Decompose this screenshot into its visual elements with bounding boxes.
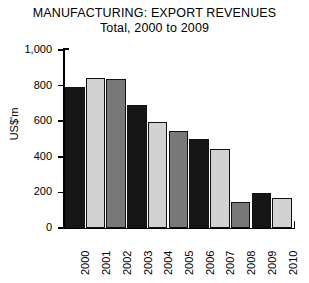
bar [189, 139, 209, 228]
bar [65, 87, 85, 229]
bar [252, 193, 272, 228]
y-axis-tick-label: 600 [12, 114, 52, 126]
x-axis-tick-label: 2003 [142, 251, 154, 275]
x-axis-tick-label: 2008 [245, 251, 257, 275]
y-axis-tick [58, 120, 63, 122]
y-axis-tick [58, 227, 63, 229]
bar-series [65, 50, 293, 228]
y-axis-tick [58, 192, 63, 194]
bar [210, 149, 230, 228]
y-axis-tick-label: 0 [12, 221, 52, 233]
y-axis-tick-label: 800 [12, 79, 52, 91]
bar [231, 202, 251, 228]
bar-chart-figure: MANUFACTURING: EXPORT REVENUES Total, 20… [0, 0, 309, 283]
x-axis-tick-label: 2001 [100, 251, 112, 275]
x-axis-tick-label: 2009 [266, 251, 278, 275]
y-axis-tick [58, 49, 63, 51]
bar [272, 198, 292, 228]
y-axis-tick [58, 156, 63, 158]
x-axis-tick-label: 2005 [183, 251, 195, 275]
x-axis-tick-label: 2006 [204, 251, 216, 275]
x-axis-tick-label: 2000 [79, 251, 91, 275]
y-axis-tick-label: 200 [12, 185, 52, 197]
y-axis-tick-label: 400 [12, 150, 52, 162]
chart-title-block: MANUFACTURING: EXPORT REVENUES Total, 20… [0, 6, 309, 36]
x-axis-right-cap [294, 221, 296, 229]
chart-title: MANUFACTURING: EXPORT REVENUES [0, 6, 309, 21]
bar [148, 122, 168, 228]
x-axis-tick-label: 2007 [224, 251, 236, 275]
x-axis-tick-labels: 2000200120022003200420052006200720082009… [65, 231, 293, 281]
y-axis-tick [58, 85, 63, 87]
bar [169, 131, 189, 228]
bar [106, 79, 126, 228]
chart-subtitle: Total, 2000 to 2009 [0, 21, 309, 36]
x-axis-tick-label: 2004 [162, 251, 174, 275]
bar [127, 105, 147, 228]
y-axis-tick-label: 1,000 [12, 43, 52, 55]
x-axis-tick-label: 2010 [287, 251, 299, 275]
x-axis-tick-label: 2002 [121, 251, 133, 275]
bar [86, 78, 106, 228]
